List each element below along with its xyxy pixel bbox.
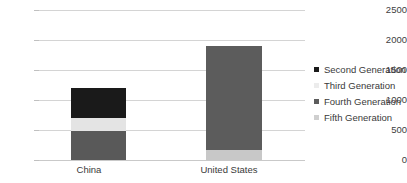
legend: Second Generation Third Generation Fourt… [314, 63, 406, 127]
x-axis-label-china: China [44, 164, 134, 176]
x-axis-label-united-states: United States [179, 164, 279, 176]
bar-united-states[interactable] [206, 46, 262, 160]
legend-swatch-fourth-generation-icon [314, 99, 319, 104]
gridline-1500 [39, 70, 305, 71]
legend-swatch-third-generation-icon [314, 83, 319, 88]
bar-united-states-segment-fourth-generation[interactable] [206, 46, 262, 150]
legend-item-fifth-generation[interactable]: Fifth Generation [314, 111, 406, 124]
legend-item-fourth-generation[interactable]: Fourth Generation [314, 95, 406, 108]
bar-china-segment-fifth-generation[interactable] [71, 118, 126, 131]
bar-china-segment-fourth-generation[interactable] [71, 131, 126, 160]
y-axis-tick-0: 0 [371, 155, 407, 165]
legend-label-fifth-generation: Fifth Generation [324, 111, 392, 124]
bar-united-states-segment-fifth-generation[interactable] [206, 150, 262, 160]
plot-area [39, 10, 305, 160]
y-axis-tick-2500: 2500 [371, 5, 407, 15]
legend-swatch-fifth-generation-icon [314, 115, 319, 120]
gridline-2500 [39, 10, 305, 11]
bar-china[interactable] [71, 88, 126, 160]
legend-label-third-generation: Third Generation [324, 79, 395, 92]
legend-item-second-generation[interactable]: Second Generation [314, 63, 406, 76]
stacked-bar-chart: 2500 2000 1500 1000 500 0 China [0, 0, 407, 183]
bar-china-segment-second-generation[interactable] [71, 88, 126, 118]
legend-swatch-second-generation-icon [314, 67, 319, 72]
legend-label-fourth-generation: Fourth Generation [324, 95, 401, 108]
gridline-2000 [39, 40, 305, 41]
legend-item-third-generation[interactable]: Third Generation [314, 79, 406, 92]
legend-label-second-generation: Second Generation [324, 63, 406, 76]
y-axis-tick-2000: 2000 [371, 35, 407, 45]
axis-baseline [39, 160, 305, 161]
